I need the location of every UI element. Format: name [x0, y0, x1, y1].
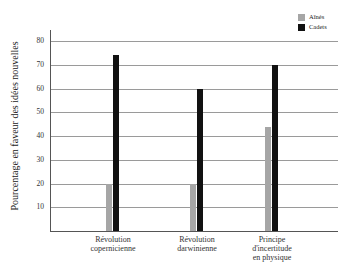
gridline	[51, 160, 338, 161]
bar-aines	[190, 184, 196, 232]
x-category-label-line: d'incertitude	[232, 244, 312, 253]
bar-aines	[106, 184, 112, 232]
y-tick-label: 80	[26, 36, 44, 45]
bar-cadets	[113, 55, 119, 231]
legend-label-aines: Aînés	[309, 12, 324, 22]
y-tick-label: 60	[26, 84, 44, 93]
y-tick-label: 10	[26, 202, 44, 211]
x-category-label: Révolutioncopernicienne	[73, 235, 153, 253]
gridline	[51, 65, 338, 66]
legend: Aînés Cadets	[298, 12, 327, 32]
plot-area: 1020304050607080	[50, 30, 338, 231]
x-category-label: Principed'incertitudeen physique	[232, 235, 312, 262]
x-category-label-line: en physique	[232, 253, 312, 262]
x-category-label-line: darwinienne	[157, 244, 237, 253]
gridline	[51, 136, 338, 137]
y-tick-label: 30	[26, 155, 44, 164]
y-tick-label: 20	[26, 179, 44, 188]
gridline	[51, 112, 338, 113]
gridline	[51, 41, 338, 42]
bar-aines	[265, 127, 271, 232]
x-category-label-line: Révolution	[157, 235, 237, 244]
x-category-label: Révolutiondarwinienne	[157, 235, 237, 253]
gridline	[51, 89, 338, 90]
x-category-label-line: Révolution	[73, 235, 153, 244]
legend-swatch-aines	[298, 14, 305, 21]
y-tick-label: 70	[26, 60, 44, 69]
x-category-label-line: copernicienne	[73, 244, 153, 253]
y-axis-label: Pourcentage en faveur des idées nouvelle…	[9, 51, 20, 211]
x-axis	[50, 231, 338, 232]
bar-cadets	[197, 89, 203, 232]
bar-cadets	[272, 65, 278, 231]
x-category-label-line: Principe	[232, 235, 312, 244]
y-axis	[50, 30, 51, 231]
legend-item-aines: Aînés	[298, 12, 327, 22]
y-tick-label: 40	[26, 131, 44, 140]
y-tick-label: 50	[26, 107, 44, 116]
